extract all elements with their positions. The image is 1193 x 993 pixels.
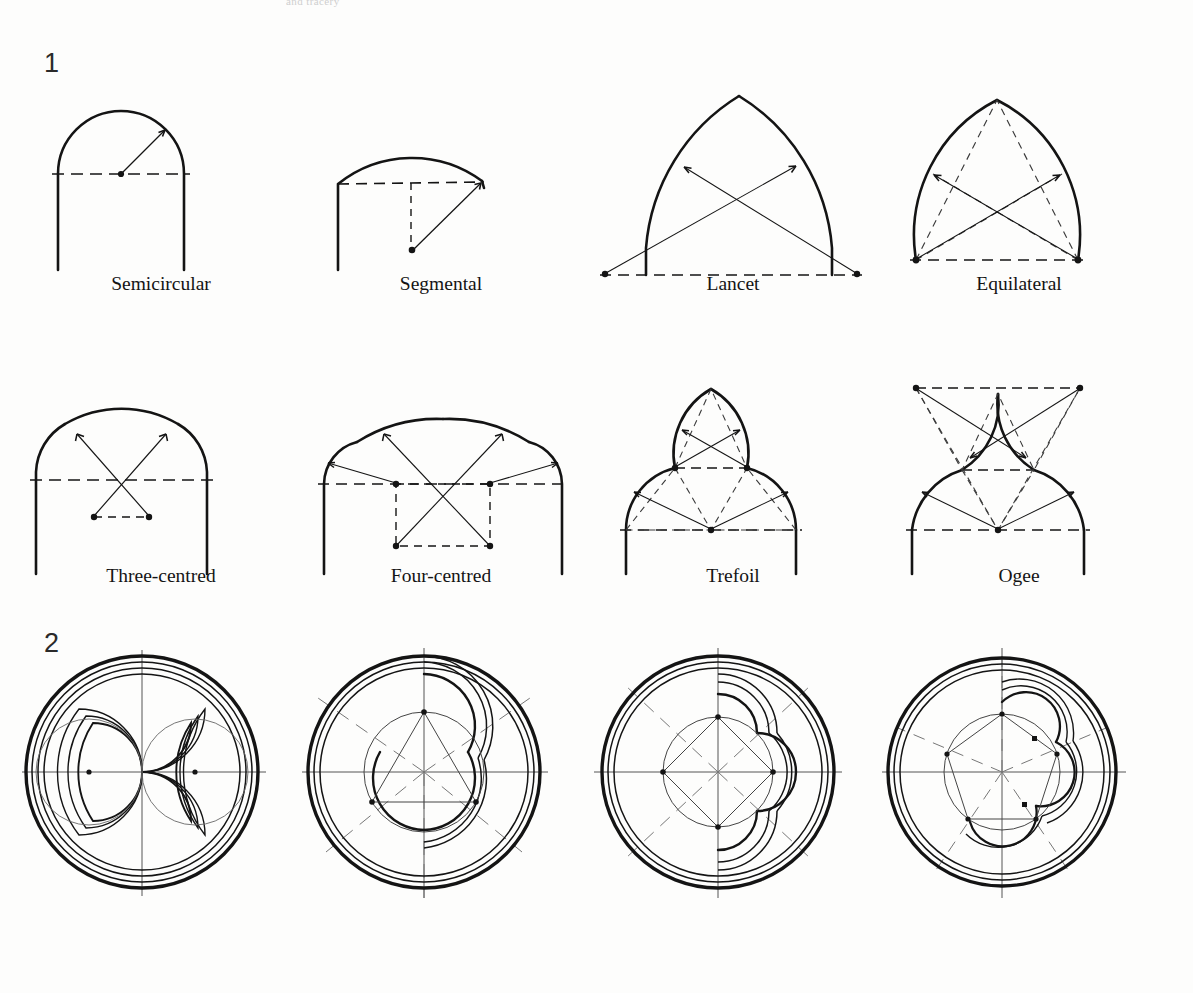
centre-point-left [369,799,375,805]
arch-caption-three-centred: Three-centred [18,565,304,587]
tracery-diagram-two-lobe [18,640,304,908]
centre-point-upper-right [1077,385,1083,391]
centre-point [409,247,416,254]
centre-point-base [708,527,714,533]
centre-point-upper-right [487,481,493,487]
arch-diagram-trefoil: Trefoil [590,362,876,592]
arch-caption-segmental: Segmental [298,273,584,295]
centre-point-upper-left [393,481,399,487]
tracery-diagram-trefoil [298,640,584,908]
centre-point-right [744,465,750,471]
marker-upper [1032,736,1037,741]
centre-point-right [770,769,776,775]
centre-point-lower-right [487,543,493,549]
arch-diagram-equilateral: Equilateral [876,70,1162,300]
arch-caption-semicircular: Semicircular [18,273,304,295]
centre-point-left [91,514,97,520]
marker-lower [1022,802,1027,807]
arch-caption-lancet: Lancet [590,273,876,295]
centre-point-upper-right [1054,751,1059,756]
centre-point-left [660,769,666,775]
arch-diagram-semicircular: Semicircular [18,70,304,300]
centre-point-left [672,465,678,471]
centre-point-base [995,527,1001,533]
arch-caption-ogee: Ogee [876,565,1162,587]
arch-caption-four-centred: Four-centred [298,565,584,587]
centre-point [118,171,124,177]
centre-point-right [1075,257,1082,264]
arch-caption-equilateral: Equilateral [876,273,1162,295]
centre-point-lower-left [965,816,970,821]
centre-point-right [473,799,479,805]
plate: and tracery 1 Semicircular [0,0,1193,993]
construction-axes [302,648,548,898]
arch-diagram-three-centred: Three-centred [18,362,304,592]
arch-diagram-lancet: Lancet [590,70,876,300]
centres-rectangle [396,484,490,546]
centre-point-left [913,257,920,264]
centre-point-top [715,714,721,720]
centre-point-top [421,709,427,715]
centre-point-left [86,769,91,774]
arch-caption-trefoil: Trefoil [590,565,876,587]
arch-diagram-segmental: Segmental [298,70,584,300]
centre-point-bottom [715,824,721,830]
construction-axes [594,648,842,898]
tracery-diagram-quatrefoil [590,640,876,908]
centre-point-upper-left [913,385,919,391]
tracery-diagram-cinquefoil [876,640,1162,908]
centre-point-right [146,514,152,520]
arch-diagram-four-centred: Four-centred [298,362,584,592]
top-caption-fragment: and tracery [286,0,706,11]
construction-axes [22,650,266,896]
centre-point-upper-left [944,751,949,756]
centre-point-right [192,769,197,774]
centre-point-lower-left [393,543,399,549]
centre-point-lower-right [1033,816,1038,821]
construction-axes [882,648,1126,898]
centre-point-top [999,711,1004,716]
arch-diagram-ogee: Ogee [876,362,1162,592]
